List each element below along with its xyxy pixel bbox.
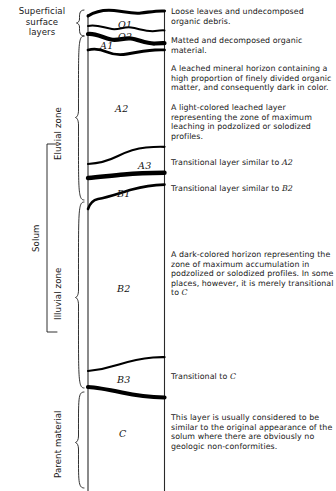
description-b1-ref: B2: [282, 184, 293, 193]
description-b2-text: A dark-colored horizon representing the …: [171, 250, 333, 297]
description-b1-text: Transitional layer similar to: [171, 184, 282, 193]
description-a3-text: Transitional layer similar to: [171, 158, 282, 167]
zone-label-illuvial: Illuvial zone: [53, 268, 64, 320]
horizon-boundary-a3-b1: [88, 173, 165, 178]
description-b3-text: Transitional to: [171, 372, 230, 381]
zone-label-parent: Parent material: [53, 410, 64, 478]
description-a3-ref: A2: [282, 158, 293, 167]
soil-profile-figure: Superficial surface layers Eluvial zone …: [0, 0, 336, 491]
horizon-code-a2: A2: [115, 103, 129, 114]
horizon-boundary-b3-c: [88, 387, 165, 398]
description-o1: Loose leaves and undecomposed organic de…: [171, 7, 334, 26]
horizon-boundary-b2-b3: [88, 357, 165, 371]
description-b3-ref: C: [230, 372, 236, 381]
brace-illuvial: [76, 202, 85, 388]
horizon-boundary-surface: [88, 10, 165, 16]
zone-label-superficial-line1: Superficial: [6, 6, 78, 17]
description-b2-ref: C: [182, 288, 188, 297]
zone-label-solum: Solum: [31, 225, 42, 252]
description-c: This layer is usually considered to be s…: [171, 413, 334, 451]
description-b3: Transitional to C: [171, 372, 334, 382]
description-a1: A leached mineral horizon containing a h…: [171, 64, 334, 93]
horizon-code-o2: O2: [118, 31, 132, 42]
description-b1: Transitional layer similar to B2: [171, 184, 334, 194]
horizon-code-b1: B1: [117, 188, 131, 199]
zone-label-superficial-line2: surface: [6, 17, 78, 28]
description-o2: Matted and decomposed organic material.: [171, 36, 334, 55]
zone-label-superficial-line3: layers: [6, 27, 78, 38]
zone-label-superficial: Superficial surface layers: [6, 6, 78, 38]
description-a3: Transitional layer similar to A2: [171, 158, 334, 168]
description-b2: A dark-colored horizon representing the …: [171, 250, 334, 298]
zone-label-eluvial: Eluvial zone: [53, 107, 64, 160]
horizon-code-o1: O1: [118, 19, 132, 30]
brace-eluvial: [76, 36, 85, 200]
description-a2: A light-colored leached layer representi…: [171, 103, 334, 141]
horizon-code-b2: B2: [117, 283, 131, 294]
horizon-code-b3: B3: [117, 374, 131, 385]
brace-parent: [76, 392, 85, 488]
horizon-boundary-a2-a3: [88, 147, 165, 164]
horizon-code-c: C: [119, 428, 127, 439]
horizon-code-a1: A1: [100, 40, 114, 51]
horizon-code-a3: A3: [138, 160, 152, 171]
